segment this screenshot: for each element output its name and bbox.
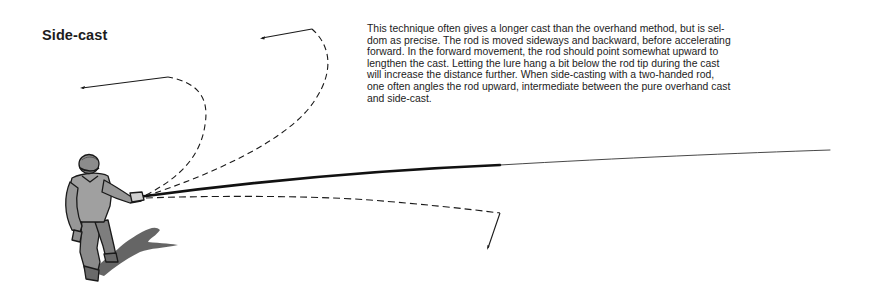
lure-line-left [82, 77, 168, 88]
lure-line-right [262, 29, 312, 38]
side-cast-illustration [0, 0, 869, 294]
trajectory-high-right [146, 29, 328, 196]
trajectory-low [146, 196, 500, 250]
lure-icon [80, 86, 85, 89]
lure-icon [260, 36, 265, 39]
lure-line-low [488, 213, 500, 248]
book-page: Side-cast This technique often gives a l… [0, 0, 869, 294]
